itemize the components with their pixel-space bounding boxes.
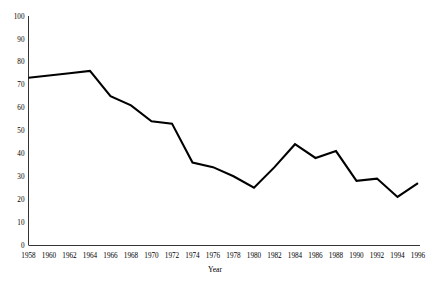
x-axis-tick-label: 1992 bbox=[370, 252, 385, 260]
line-chart: 0102030405060708090100 19581960196219641… bbox=[0, 0, 429, 283]
x-axis-tick-label: 1964 bbox=[83, 252, 98, 260]
x-axis-tick-label: 1970 bbox=[144, 252, 159, 260]
x-axis-tick-label: 1996 bbox=[411, 252, 426, 260]
x-axis-title: Year bbox=[208, 265, 222, 274]
x-axis-tick-label: 1994 bbox=[390, 252, 405, 260]
y-axis-tick-label: 70 bbox=[17, 81, 25, 89]
x-axis-tick-label: 1988 bbox=[329, 252, 344, 260]
x-axis-tick-label: 1982 bbox=[267, 252, 282, 260]
x-axis-tick-label: 1968 bbox=[124, 252, 139, 260]
y-axis-tick-label: 90 bbox=[17, 36, 25, 44]
x-axis-tick-label: 1980 bbox=[247, 252, 262, 260]
y-axis-tick-label: 60 bbox=[17, 104, 25, 112]
x-axis-tick-label: 1984 bbox=[288, 252, 303, 260]
y-axis-tick-label: 40 bbox=[17, 150, 25, 158]
chart-background bbox=[0, 0, 429, 283]
x-axis-tick-label: 1976 bbox=[206, 252, 221, 260]
chart-container: 0102030405060708090100 19581960196219641… bbox=[0, 0, 429, 283]
y-axis-tick-label: 0 bbox=[21, 242, 25, 250]
y-axis-tick-label: 80 bbox=[17, 58, 25, 66]
y-axis-tick-label: 20 bbox=[17, 196, 25, 204]
x-axis-tick-label: 1962 bbox=[62, 252, 77, 260]
x-axis-tick-label: 1958 bbox=[21, 252, 36, 260]
x-axis-tick-label: 1974 bbox=[185, 252, 200, 260]
x-axis-tick-label: 1990 bbox=[349, 252, 364, 260]
x-axis-tick-label: 1986 bbox=[308, 252, 323, 260]
y-axis-tick-label: 50 bbox=[17, 127, 25, 135]
x-axis-tick-label: 1960 bbox=[42, 252, 57, 260]
y-axis-tick-label: 100 bbox=[14, 13, 25, 21]
x-axis-tick-label: 1966 bbox=[103, 252, 118, 260]
x-axis-tick-label: 1978 bbox=[226, 252, 241, 260]
y-axis-tick-label: 10 bbox=[17, 219, 25, 227]
x-axis-tick-label: 1972 bbox=[165, 252, 180, 260]
y-axis-tick-label: 30 bbox=[17, 173, 25, 181]
